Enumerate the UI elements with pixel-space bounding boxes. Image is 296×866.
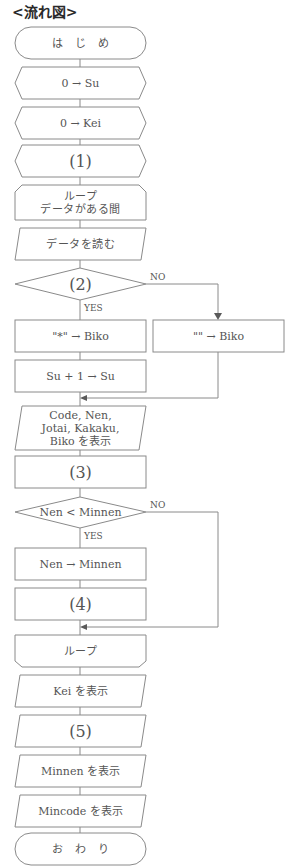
no-branch-line [146, 284, 218, 316]
decision-nen-no-label: NO [150, 500, 165, 510]
set-biko-empty-label: "" → Biko [153, 320, 284, 352]
init-su-label: 0 → Su [15, 67, 146, 99]
display-kei-label: Kei を表示 [15, 675, 146, 707]
end-label: お わ り [15, 833, 146, 865]
arrow-left-icon [80, 624, 87, 630]
loop-start-label: ループ データがある間 [15, 185, 146, 220]
set-minnen-label: Nen → Minnen [15, 548, 146, 580]
loop-end-label: ループ [15, 635, 146, 667]
blank1-label: (1) [15, 145, 146, 177]
arrow-down-icon [214, 313, 222, 320]
arrow-left-icon [80, 395, 87, 401]
blank2-label: (2) [15, 268, 146, 300]
start-label: は じ め [15, 27, 146, 59]
decision2-yes-label: YES [84, 303, 103, 313]
decision-nen-label: Nen < Minnen [15, 497, 146, 528]
init-kei-label: 0 → Kei [15, 107, 146, 139]
read-data-label: データを読む [15, 228, 146, 260]
display-mincode-label: Mincode を表示 [15, 795, 146, 827]
set-biko-star-label: "*" → Biko [15, 320, 146, 352]
decision2-no-label: NO [150, 272, 165, 282]
blank3-label: (3) [15, 456, 146, 488]
blank4-label: (4) [15, 588, 146, 620]
increment-su-label: Su + 1 → Su [15, 360, 146, 392]
blank5-label: (5) [15, 715, 146, 747]
display-record-label: Code, Nen, Jotai, Kakaku, Biko を表示 [15, 406, 146, 450]
decision-nen-yes-label: YES [84, 531, 103, 541]
display-minnen-label: Minnen を表示 [15, 755, 146, 787]
